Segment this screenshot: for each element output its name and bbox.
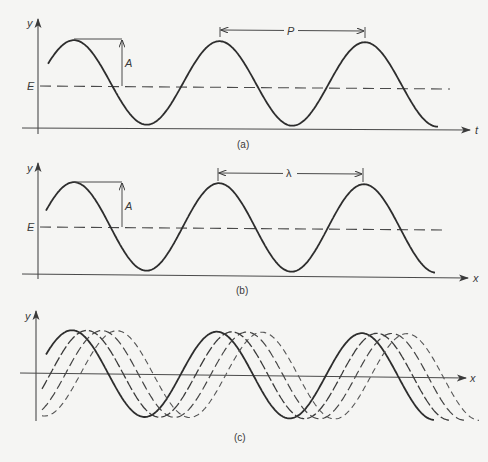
wave-figure: y t E A P (a) y x E A λ (b): [0, 0, 488, 462]
wavelength-label: λ: [286, 167, 292, 179]
equilibrium-line-b: [40, 227, 448, 230]
y-axis-label-b: y: [26, 162, 34, 174]
y-axis-label-c: y: [24, 310, 32, 322]
panel-c: y x (c): [20, 310, 479, 443]
caption-b: (b): [236, 285, 248, 296]
panel-a: y t E A P (a): [22, 17, 479, 150]
wave-curve-a: [48, 40, 438, 127]
amplitude-label-a: A: [124, 57, 132, 69]
x-axis-label-c: x: [469, 372, 476, 384]
equilibrium-label-b: E: [27, 221, 35, 233]
equilibrium-label-a: E: [27, 80, 35, 92]
t-axis-label: t: [475, 124, 479, 136]
panel-b: y x E A λ (b): [22, 162, 479, 296]
period-label: P: [287, 25, 295, 37]
equilibrium-line-a: [40, 86, 450, 89]
t-axis: [22, 128, 470, 130]
caption-a: (a): [237, 139, 249, 150]
wave-curve-b: [46, 182, 435, 272]
x-axis-label-b: x: [472, 272, 479, 284]
amplitude-label-b: A: [124, 200, 132, 212]
caption-c: (c): [234, 432, 246, 443]
y-axis-label-a: y: [26, 17, 34, 29]
x-axis-b: [22, 274, 468, 278]
